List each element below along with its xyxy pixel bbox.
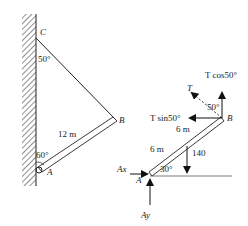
angle-b-label: 50° xyxy=(207,102,220,112)
cable-cb xyxy=(36,38,115,119)
statics-diagram: C 50° B 12 m 60° A T cos50° T 50° T sin5… xyxy=(0,0,248,226)
label-c: C xyxy=(40,27,47,37)
angle-30-label: 30° xyxy=(160,164,173,174)
left-figure: C 50° B 12 m 60° A xyxy=(22,14,125,186)
label-a-right: A xyxy=(135,175,142,185)
load-label: 140 xyxy=(192,148,206,158)
label-b: B xyxy=(119,115,125,125)
t-cos-label: T cos50° xyxy=(205,70,238,80)
t-sin-label: T sin50° xyxy=(150,113,181,123)
wall-hatch xyxy=(22,14,36,186)
lower-length-label: 6 m xyxy=(150,144,164,154)
angle-a-label: 60° xyxy=(36,150,49,160)
angle-c-label: 50° xyxy=(38,54,51,64)
upper-length-label: 6 m xyxy=(176,124,190,134)
label-b-right: B xyxy=(227,113,233,123)
label-a: A xyxy=(46,167,53,177)
ax-label: Ax xyxy=(116,164,127,174)
ay-label: Ay xyxy=(140,210,150,220)
tension-label: T xyxy=(187,83,193,93)
beam-length-label: 12 m xyxy=(58,129,76,139)
right-figure: T cos50° T 50° T sin50° B 6 m 6 m 140 30… xyxy=(116,70,238,220)
beam-ab xyxy=(38,117,117,172)
